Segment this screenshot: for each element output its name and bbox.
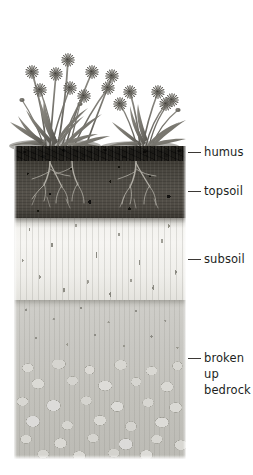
block-right-edge (183, 146, 186, 459)
bedrock-upper-fringe (14, 300, 186, 308)
soil-layer-subsoil (14, 218, 186, 300)
leader-line-subsoil (188, 259, 201, 260)
label-subsoil: subsoil (204, 252, 245, 268)
plant-stems (22, 60, 178, 146)
label-humus: humus (204, 145, 244, 161)
soil-layer-humus (14, 146, 186, 161)
soil-profile-block (14, 146, 186, 459)
flower-heads (19, 54, 180, 113)
subsoil-texture (14, 218, 186, 300)
label-bedrock-line1: broken (204, 351, 244, 367)
soil-layer-bedrock (14, 300, 186, 459)
label-topsoil: topsoil (204, 184, 243, 200)
humus-texture (14, 146, 186, 161)
label-bedrock-line2: up (204, 367, 219, 383)
plant-leaves (10, 100, 186, 148)
root-system (14, 161, 186, 218)
leader-line-topsoil (188, 191, 201, 192)
label-bedrock-line3: bedrock (204, 383, 251, 399)
soil-profile-figure: humus topsoil subsoil broken up bedrock (0, 0, 253, 475)
subsoil-upper-fringe (14, 218, 186, 228)
bedrock-clasts-texture (14, 360, 186, 459)
leader-line-bedrock (188, 358, 201, 359)
soil-layer-topsoil (14, 161, 186, 218)
leader-line-humus (188, 152, 201, 153)
block-left-edge (14, 146, 17, 459)
block-bottom-edge (14, 455, 186, 459)
